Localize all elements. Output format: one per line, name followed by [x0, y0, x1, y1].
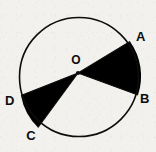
- vertex-label-a: A: [136, 29, 146, 44]
- circle-diagram: O A B C D: [0, 0, 156, 152]
- center-label-o: O: [71, 53, 80, 67]
- vertex-label-c: C: [26, 128, 36, 143]
- vertex-label-d: D: [5, 93, 14, 108]
- vertex-label-b: B: [140, 91, 149, 106]
- geometry-figure: O A B C D: [0, 0, 156, 152]
- center-point-dot: [76, 71, 80, 75]
- shaded-sector-cod: [21, 73, 78, 128]
